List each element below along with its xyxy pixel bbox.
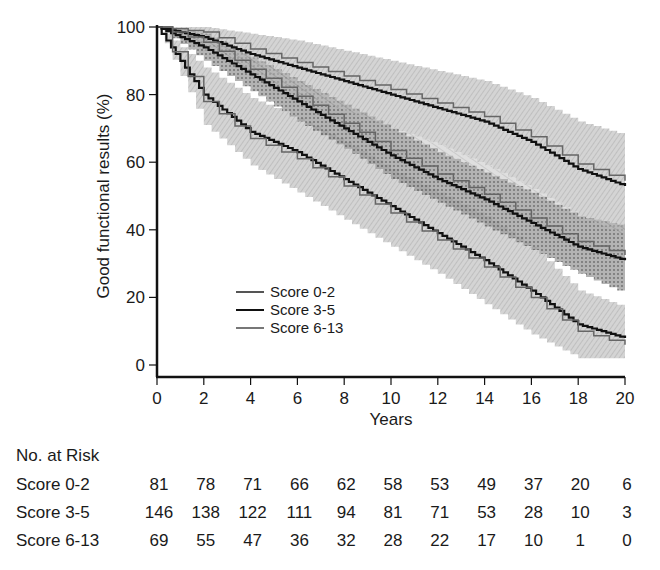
y-tick-label: 40 bbox=[126, 221, 145, 240]
risk-cell: 81 bbox=[373, 503, 413, 523]
risk-cell: 78 bbox=[186, 475, 226, 495]
risk-cell: 36 bbox=[279, 531, 319, 551]
risk-row: Score 0-2817871666258534937206 bbox=[0, 475, 660, 499]
x-tick-label: 8 bbox=[339, 389, 348, 408]
risk-cell: 122 bbox=[233, 503, 273, 523]
risk-cell: 28 bbox=[373, 531, 413, 551]
risk-cell: 53 bbox=[467, 503, 507, 523]
x-tick-label: 4 bbox=[246, 389, 255, 408]
y-tick-label: 80 bbox=[126, 86, 145, 105]
risk-cell: 10 bbox=[513, 531, 553, 551]
risk-cell: 138 bbox=[186, 503, 226, 523]
risk-cell: 32 bbox=[326, 531, 366, 551]
y-tick-label: 0 bbox=[136, 356, 145, 375]
x-tick-label: 14 bbox=[475, 389, 494, 408]
x-tick-label: 12 bbox=[428, 389, 447, 408]
survival-chart: 02040608010002468101214161820YearsGood f… bbox=[0, 0, 660, 440]
risk-cell: 37 bbox=[513, 475, 553, 495]
risk-cell: 6 bbox=[607, 475, 647, 495]
y-tick-label: 100 bbox=[117, 18, 145, 37]
risk-cell: 17 bbox=[467, 531, 507, 551]
risk-cell: 69 bbox=[139, 531, 179, 551]
risk-cell: 53 bbox=[420, 475, 460, 495]
risk-row-label: Score 0-2 bbox=[16, 475, 90, 495]
y-tick-label: 60 bbox=[126, 153, 145, 172]
risk-cell: 49 bbox=[467, 475, 507, 495]
risk-cell: 1 bbox=[560, 531, 600, 551]
y-tick-label: 20 bbox=[126, 288, 145, 307]
risk-cell: 0 bbox=[607, 531, 647, 551]
risk-cell: 111 bbox=[279, 503, 319, 523]
x-tick-label: 10 bbox=[382, 389, 401, 408]
risk-cell: 58 bbox=[373, 475, 413, 495]
risk-row-label: Score 3-5 bbox=[16, 503, 90, 523]
x-axis-title: Years bbox=[370, 410, 413, 429]
risk-cell: 20 bbox=[560, 475, 600, 495]
x-tick-label: 0 bbox=[152, 389, 161, 408]
x-tick-label: 16 bbox=[522, 389, 541, 408]
risk-cell: 66 bbox=[279, 475, 319, 495]
x-tick-label: 18 bbox=[569, 389, 588, 408]
risk-cell: 22 bbox=[420, 531, 460, 551]
legend-label: Score 0-2 bbox=[270, 283, 335, 300]
legend-label: Score 3-5 bbox=[270, 301, 335, 318]
legend: Score 0-2Score 3-5Score 6-13 bbox=[236, 283, 343, 336]
y-axis-title: Good functional results (%) bbox=[94, 93, 113, 298]
x-tick-label: 2 bbox=[199, 389, 208, 408]
risk-cell: 47 bbox=[233, 531, 273, 551]
risk-cell: 71 bbox=[233, 475, 273, 495]
legend-label: Score 6-13 bbox=[270, 319, 343, 336]
risk-row: Score 6-1369554736322822171010 bbox=[0, 531, 660, 555]
risk-cell: 94 bbox=[326, 503, 366, 523]
risk-row: Score 3-51461381221119481715328103 bbox=[0, 503, 660, 527]
x-tick-label: 6 bbox=[293, 389, 302, 408]
risk-cell: 71 bbox=[420, 503, 460, 523]
risk-cell: 10 bbox=[560, 503, 600, 523]
risk-cell: 62 bbox=[326, 475, 366, 495]
risk-cell: 55 bbox=[186, 531, 226, 551]
risk-cell: 81 bbox=[139, 475, 179, 495]
x-tick-label: 20 bbox=[616, 389, 635, 408]
risk-cell: 146 bbox=[139, 503, 179, 523]
risk-cell: 28 bbox=[513, 503, 553, 523]
risk-table-title: No. at Risk bbox=[16, 446, 99, 466]
risk-cell: 3 bbox=[607, 503, 647, 523]
risk-row-label: Score 6-13 bbox=[16, 531, 99, 551]
